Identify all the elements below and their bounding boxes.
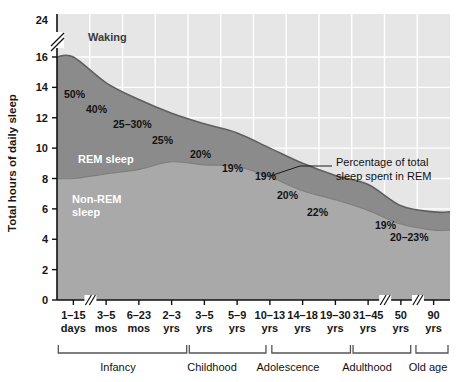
life-stage-brackets: InfancyChildhoodAdolescenceAdulthoodOld … (58, 345, 448, 373)
y-tick-label: 6 (42, 203, 48, 215)
x-tick-label-line1: 6–23 (127, 309, 151, 321)
life-stage-label: Infancy (100, 361, 136, 373)
x-tick-label-line1: 3–5 (97, 309, 115, 321)
rem-percentage-label: 50% (64, 88, 86, 100)
rem-percentage-label: 20–23% (390, 231, 429, 243)
x-tick-label-line2: yrs (262, 322, 279, 334)
rem-percentage-label: 40% (86, 103, 108, 115)
annotation-line-1: Percentage of total (336, 156, 428, 168)
x-tick-label-line1: 19–30 (320, 309, 351, 321)
x-tick-label-line1: 2–3 (162, 309, 180, 321)
x-tick-label-line2: yrs (360, 322, 377, 334)
x-tick-label-line1: 5–9 (228, 309, 246, 321)
x-tick-label-line2: days (61, 322, 86, 334)
y-tick-label: 2 (42, 264, 48, 276)
x-tick-label-line2: yrs (196, 322, 213, 334)
rem-percentage-label: 25–30% (113, 118, 152, 130)
x-tick-label-line2: yrs (163, 322, 180, 334)
y-axis-title: Total hours of daily sleep (6, 94, 18, 232)
life-stage-bracket (189, 345, 266, 353)
y-tick-label: 16 (36, 51, 48, 63)
y-tick-label: 24 (36, 14, 49, 26)
rem-percentage-label: 20% (277, 189, 299, 201)
band-label-non-rem-line1: Non-REM (72, 193, 122, 205)
life-stage-bracket (353, 345, 411, 353)
x-tick-label-line2: yrs (327, 322, 344, 334)
y-tick-label: 8 (42, 173, 48, 185)
x-tick-label-line1: 1–15 (61, 309, 85, 321)
y-tick-label: 14 (36, 81, 49, 93)
rem-percentage-label: 19% (375, 219, 397, 231)
x-tick-label-line1: 3–5 (195, 309, 213, 321)
life-stage-label: Adulthood (342, 361, 392, 373)
y-axis-ticks: 241614121086420 (36, 14, 57, 306)
life-stage-bracket (272, 345, 351, 353)
chart-svg: Waking REM sleep Non-REM sleep 50%40%25–… (0, 0, 462, 382)
life-stage-bracket (416, 345, 448, 353)
y-tick-label: 0 (42, 294, 48, 306)
life-stage-bracket (58, 345, 186, 353)
band-label-rem: REM sleep (78, 153, 134, 165)
band-label-waking: Waking (88, 31, 127, 43)
annotation-line-2: sleep spent in REM (336, 170, 431, 182)
x-tick-label-line2: mos (128, 322, 151, 334)
x-tick-label-line1: 90 (428, 309, 440, 321)
x-tick-label-line2: yrs (393, 322, 410, 334)
x-tick-label-line2: yrs (229, 322, 246, 334)
x-tick-label-line2: yrs (425, 322, 442, 334)
rem-percentage-label: 20% (190, 148, 212, 160)
x-tick-label-line1: 50 (395, 309, 407, 321)
rem-percentage-label: 19% (222, 162, 244, 174)
life-stage-label: Old age (409, 361, 448, 373)
life-stage-label: Adolescence (257, 361, 320, 373)
x-tick-label-line1: 10–13 (255, 309, 286, 321)
rem-percentage-label: 19% (255, 170, 277, 182)
x-tick-label-line2: mos (95, 322, 118, 334)
x-axis-tick-labels: 1–15days3–5mos6–23mos2–3yrs3–5yrs5–9yrs1… (61, 309, 442, 334)
life-stage-label: Childhood (187, 361, 237, 373)
y-tick-label: 12 (36, 112, 48, 124)
x-tick-label-line2: yrs (294, 322, 311, 334)
x-tick-label-line1: 14–18 (287, 309, 318, 321)
band-label-non-rem-line2: sleep (72, 206, 100, 218)
sleep-across-lifespan-chart: Waking REM sleep Non-REM sleep 50%40%25–… (0, 0, 462, 382)
x-tick-label-line1: 31–45 (353, 309, 384, 321)
rem-percentage-label: 22% (307, 206, 329, 218)
y-tick-label: 10 (36, 142, 48, 154)
rem-percentage-label: 25% (152, 134, 174, 146)
y-tick-label: 4 (42, 233, 49, 245)
